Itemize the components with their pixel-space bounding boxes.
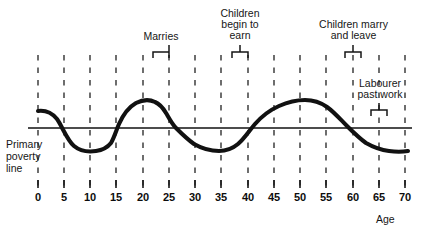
poverty-line-label-line2: poverty xyxy=(6,150,40,162)
xtick-label-20: 20 xyxy=(129,192,157,204)
xtick-label-0: 0 xyxy=(24,192,52,204)
annotation-marries: Marries xyxy=(131,31,191,43)
bracket-children-earn xyxy=(232,45,248,58)
xtick-label-5: 5 xyxy=(50,192,78,204)
annotation-children-earn-line3: earn xyxy=(210,30,270,42)
xtick-label-60: 60 xyxy=(339,192,367,204)
xtick-label-35: 35 xyxy=(207,192,235,204)
xtick-label-30: 30 xyxy=(181,192,209,204)
xtick-label-45: 45 xyxy=(260,192,288,204)
bracket-marries xyxy=(153,45,169,58)
xtick-label-65: 65 xyxy=(365,192,393,204)
xtick-label-55: 55 xyxy=(312,192,340,204)
xtick-label-70: 70 xyxy=(391,192,419,204)
poverty-cycle-chart: 0 5 10 15 20 25 30 35 40 45 50 55 60 65 … xyxy=(0,0,425,238)
poverty-line-label-line1: Primary xyxy=(6,138,42,150)
xtick-label-40: 40 xyxy=(234,192,262,204)
annotation-children-leave-line2: and leave xyxy=(306,30,401,42)
bracket-past-work xyxy=(371,103,387,116)
xtick-label-15: 15 xyxy=(102,192,130,204)
annotation-past-work-line2: past work xyxy=(345,89,415,101)
xtick-label-10: 10 xyxy=(76,192,104,204)
xtick-label-50: 50 xyxy=(286,192,314,204)
poverty-line-label-line3: line xyxy=(6,162,22,174)
x-axis-title: Age xyxy=(376,214,395,226)
xtick-label-25: 25 xyxy=(155,192,183,204)
gridlines xyxy=(38,55,405,188)
axis-ticks xyxy=(38,180,405,188)
